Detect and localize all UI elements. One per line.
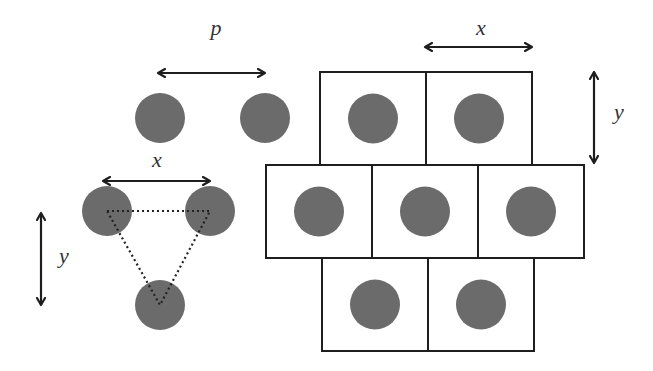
particle-circle	[350, 280, 400, 330]
y-label-right: y	[614, 101, 624, 123]
particle-circle	[294, 187, 344, 237]
particle-circle	[454, 94, 504, 144]
particle-circle	[400, 187, 450, 237]
x-label-right: x	[476, 17, 486, 39]
particle-circle	[135, 93, 185, 143]
triangle-packing-group	[41, 181, 235, 330]
particle-circle	[240, 93, 290, 143]
y-label-left: y	[59, 245, 69, 267]
pitch-pair-group	[135, 73, 290, 143]
square-grid-group	[266, 47, 594, 351]
particle-circle	[456, 280, 506, 330]
particle-circle	[348, 94, 398, 144]
diagram-canvas	[0, 0, 653, 371]
particle-circle	[135, 280, 185, 330]
x-label-left: x	[152, 149, 162, 171]
pitch-label: p	[211, 17, 222, 39]
particle-circle	[506, 187, 556, 237]
